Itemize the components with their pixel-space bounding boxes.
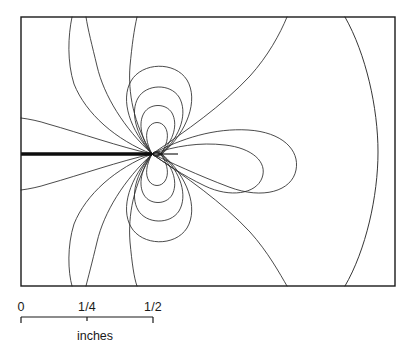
- scale-label-1-2: 1/2: [144, 300, 162, 314]
- scale-label-0: 0: [17, 300, 24, 314]
- scale-label-1-4: 1/4: [78, 300, 96, 314]
- contour-field-figure: 01/41/2 inches: [0, 0, 411, 356]
- scale-units-label: inches: [77, 329, 113, 343]
